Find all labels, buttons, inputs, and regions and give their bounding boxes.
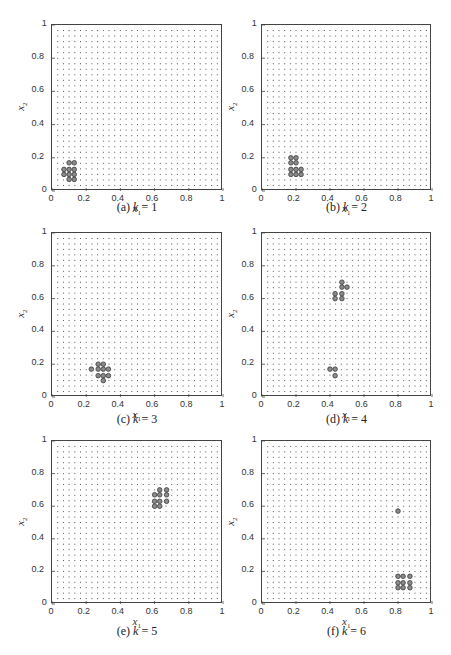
highlighted-point [299,172,304,177]
y-tick-label: 0.4 [31,118,44,128]
x-tick-label: 0.8 [180,399,193,409]
highlighted-point [96,373,101,378]
y-tick-label: 0.8 [241,467,254,477]
highlighted-point [157,499,162,504]
y-tick-label: 0.4 [31,532,44,542]
panel-caption: (d) k = 4 [234,412,451,427]
highlighted-point [294,156,299,161]
highlighted-point [62,167,67,172]
highlighted-point [157,488,162,493]
highlighted-point [62,172,67,177]
x-tick-label: 0.2 [287,606,300,616]
x-tick-label: 0.8 [389,606,402,616]
highlighted-point [152,492,157,497]
highlighted-point [408,581,413,586]
y-tick-label: 0.6 [241,84,254,94]
x-tick-label: 0.6 [146,606,159,616]
highlighted-point [333,291,338,296]
highlighted-point [72,167,77,172]
x-tick-label: 0.4 [321,399,334,409]
highlighted-point [396,581,401,586]
highlighted-point [72,177,77,182]
x-tick-label: 0.8 [180,606,193,616]
x-tick-label: 0.2 [77,606,90,616]
highlighted-point [164,488,169,493]
highlighted-point [67,167,72,172]
x-tick-label: 0.2 [77,399,90,409]
y-axis-label: x2 [224,517,239,525]
y-axis-label: x2 [14,102,29,110]
y-axis-label: x2 [224,309,239,317]
highlighted-point [67,160,72,165]
highlighted-point [96,367,101,372]
scatter-plot [52,233,223,397]
y-tick-label: 0 [252,597,257,607]
y-tick-label: 0.8 [241,259,254,269]
highlighted-point [333,367,338,372]
highlighted-point [101,373,106,378]
plot-area [51,24,222,190]
x-tick-label: 1 [219,606,224,616]
highlighted-point [333,296,338,301]
y-tick-label: 0.2 [241,357,254,367]
highlighted-point [333,373,338,378]
highlighted-point [157,492,162,497]
highlighted-point [106,367,111,372]
highlighted-point [408,585,413,590]
highlighted-point [164,492,169,497]
highlighted-point [157,504,162,509]
highlighted-point [89,367,94,372]
x-tick-label: 1 [219,399,224,409]
x-tick-label: 0.6 [355,399,368,409]
y-tick-label: 0.4 [241,532,254,542]
y-tick-label: 0.2 [241,564,254,574]
y-tick-label: 0.2 [31,151,44,161]
x-tick-label: 0.4 [112,606,125,616]
highlighted-point [401,574,406,579]
y-axis-label: x2 [14,309,29,317]
y-tick-label: 0.4 [241,324,254,334]
highlighted-point [164,499,169,504]
highlighted-points [289,156,304,177]
panel-caption: (a) k = 1 [25,200,250,215]
highlighted-point [294,172,299,177]
highlighted-point [106,373,111,378]
y-tick-label: 0.4 [31,324,44,334]
y-tick-label: 0 [42,184,47,194]
x-tick-label: 0.6 [146,399,159,409]
x-tick-label: 0.2 [287,399,300,409]
plot-area [261,24,431,190]
y-tick-label: 1 [252,18,257,28]
highlighted-point [340,296,345,301]
highlighted-point [67,177,72,182]
highlighted-point [152,499,157,504]
highlighted-point [328,367,333,372]
y-tick-label: 0.6 [31,499,44,509]
x-tick-label: 0 [48,399,53,409]
x-tick-label: 0 [258,399,263,409]
highlighted-point [294,167,299,172]
grid-dots [57,446,218,599]
plot-area [51,232,222,396]
highlighted-point [340,285,345,290]
y-tick-label: 0.6 [241,292,254,302]
x-tick-label: 0 [258,606,263,616]
x-tick-label: 1 [428,606,433,616]
x-tick-label: 1 [428,399,433,409]
highlighted-point [401,585,406,590]
y-tick-label: 0.8 [31,467,44,477]
highlighted-point [396,509,401,514]
y-tick-label: 0.2 [31,357,44,367]
y-axis-label: x2 [224,102,239,110]
y-tick-label: 0.6 [241,499,254,509]
y-tick-label: 0.8 [31,51,44,61]
highlighted-points [328,280,350,378]
x-tick-label: 0 [48,606,53,616]
y-tick-label: 1 [252,226,257,236]
highlighted-point [72,172,77,177]
highlighted-point [67,172,72,177]
y-tick-label: 1 [252,434,257,444]
panel-caption: (e) k = 5 [25,624,250,639]
highlighted-point [96,362,101,367]
highlighted-point [396,574,401,579]
